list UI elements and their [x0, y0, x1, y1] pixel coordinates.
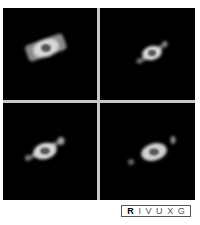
filter-r: R	[127, 206, 134, 216]
nebula-panel-1	[3, 8, 97, 100]
nebula-image-1	[3, 8, 97, 100]
nebula-image-2	[100, 8, 195, 100]
filter-i: I	[138, 206, 141, 216]
nebula-panel-4	[100, 103, 195, 200]
filter-x: X	[167, 206, 173, 216]
filter-legend: R I V U X G	[121, 205, 191, 217]
nebula-panel-2	[100, 8, 195, 100]
nebula-image-4	[100, 103, 195, 200]
nebula-panel-3	[3, 103, 97, 200]
filter-u: U	[156, 206, 163, 216]
filter-v: V	[146, 206, 152, 216]
image-grid	[3, 8, 195, 200]
nebula-image-3	[3, 103, 97, 200]
filter-g: G	[178, 206, 185, 216]
